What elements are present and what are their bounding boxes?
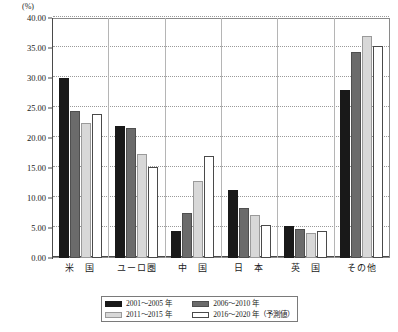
bar <box>362 36 372 258</box>
group-separator <box>165 18 166 258</box>
bar <box>306 233 316 258</box>
y-axis-tick-label: 30.00 <box>27 74 46 83</box>
legend-label: 2011～2015 年 <box>126 310 172 320</box>
gridline <box>53 16 389 17</box>
legend-label: 2016～2020 年（予測値） <box>213 310 294 320</box>
bar <box>182 213 192 258</box>
bar <box>59 78 69 258</box>
x-axis-tick-label: 日 本 <box>234 262 264 274</box>
bar <box>317 231 327 258</box>
x-axis-tick-label: 英 国 <box>291 262 321 274</box>
bar <box>92 114 102 258</box>
bar <box>373 46 383 258</box>
legend-swatch <box>192 301 209 307</box>
bar <box>250 215 260 258</box>
bar <box>340 90 350 258</box>
bar-chart: (%) 0.005.0010.0015.0020.0025.0030.0035.… <box>0 0 398 332</box>
bar <box>351 52 361 258</box>
x-axis-tick-label: その他 <box>347 262 377 274</box>
legend-label: 2006～2010 年 <box>213 299 259 309</box>
bar-group <box>165 18 221 258</box>
bar-group <box>52 18 108 258</box>
chart-legend: 2001～2005 年2006～2010 年2011～2015 年2016～20… <box>101 296 298 322</box>
legend-item: 2016～2020 年（予測値） <box>192 310 294 320</box>
group-separator <box>221 18 222 258</box>
y-axis-tick-label: 25.00 <box>27 104 46 113</box>
legend-swatch <box>105 301 122 307</box>
bar <box>261 225 271 258</box>
legend-item: 2006～2010 年 <box>192 299 294 309</box>
bar-group <box>277 18 333 258</box>
bar-group <box>108 18 164 258</box>
bar <box>115 126 125 258</box>
y-axis-tick-label: 20.00 <box>27 134 46 143</box>
y-axis-tick-label: 15.00 <box>27 164 46 173</box>
bar <box>81 123 91 258</box>
bar <box>284 226 294 258</box>
legend-swatch <box>105 312 122 318</box>
x-axis-labels: 米 国ユーロ圏中 国日 本英 国その他 <box>52 262 390 280</box>
bar <box>148 167 158 258</box>
bar <box>204 156 214 258</box>
group-separator <box>277 18 278 258</box>
y-axis-tick-label: 5.00 <box>31 224 46 233</box>
y-axis-tick-label: 40.00 <box>27 14 46 23</box>
bar <box>295 229 305 258</box>
unit-label: (%) <box>22 2 34 12</box>
y-axis-tick-label: 35.00 <box>27 44 46 53</box>
bar-group <box>334 18 390 258</box>
y-axis-tick-label: 10.00 <box>27 194 46 203</box>
bar <box>137 154 147 258</box>
y-axis-labels: 0.005.0010.0015.0020.0025.0030.0035.0040… <box>0 18 50 258</box>
legend-label: 2001～2005 年 <box>126 299 172 309</box>
bar <box>228 190 238 258</box>
bar-groups <box>52 18 390 258</box>
group-separator <box>108 18 109 258</box>
bar <box>126 128 136 258</box>
bar <box>193 181 203 258</box>
group-separator <box>334 18 335 258</box>
bar <box>171 231 181 258</box>
legend-swatch <box>192 312 209 318</box>
x-axis-tick-label: 中 国 <box>178 262 208 274</box>
y-axis-tick-label: 0.00 <box>31 254 46 263</box>
bar-group <box>221 18 277 258</box>
legend-item: 2001～2005 年 <box>105 299 192 309</box>
legend-item: 2011～2015 年 <box>105 310 192 320</box>
bar <box>239 208 249 258</box>
bar <box>70 111 80 258</box>
x-axis-tick-label: 米 国 <box>65 262 95 274</box>
x-axis-tick-label: ユーロ圏 <box>117 262 157 274</box>
